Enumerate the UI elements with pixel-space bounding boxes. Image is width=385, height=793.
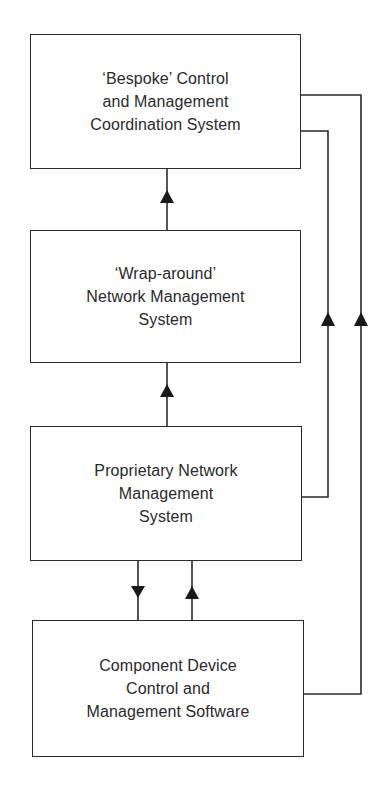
node-label: Proprietary Network Management System [94, 459, 237, 528]
arrow-up-icon [321, 312, 335, 326]
node-label: ‘Wrap-around’ Network Management System [86, 262, 244, 331]
arrow-up-icon [160, 190, 174, 203]
node-bespoke-system: ‘Bespoke’ Control and Management Coordin… [30, 34, 301, 169]
edge-proprietary-to-bespoke-loop [301, 131, 328, 497]
arrow-down-icon [131, 586, 145, 598]
arrow-up-icon [185, 586, 199, 599]
arrow-up-icon [354, 312, 368, 326]
node-component-software: Component Device Control and Management … [32, 620, 304, 757]
node-label: Component Device Control and Management … [87, 654, 250, 723]
node-wraparound-system: ‘Wrap-around’ Network Management System [30, 230, 301, 363]
arrow-up-icon [160, 384, 174, 397]
node-proprietary-system: Proprietary Network Management System [30, 426, 302, 561]
node-label: ‘Bespoke’ Control and Management Coordin… [90, 67, 240, 136]
edge-component-to-bespoke-loop [301, 95, 361, 694]
